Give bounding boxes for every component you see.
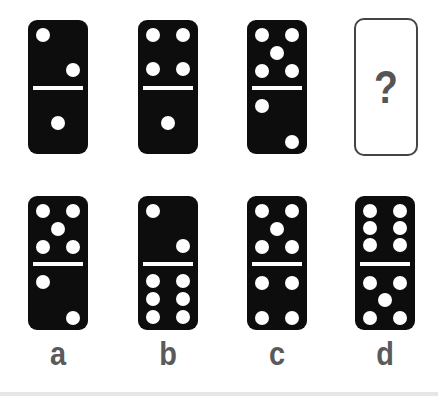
bottom-pip (51, 116, 65, 130)
bottom-pip (285, 276, 299, 290)
top-pip (51, 222, 65, 236)
top-pip (146, 62, 160, 76)
option-domino-b[interactable] (138, 196, 198, 330)
top-pip (255, 64, 269, 78)
domino-divider (252, 262, 302, 266)
top-pip (270, 222, 284, 236)
top-pip (176, 239, 190, 253)
top-pip (176, 28, 190, 42)
option-label-b[interactable]: b (143, 334, 194, 373)
domino-divider (143, 86, 193, 90)
bottom-pip (146, 310, 160, 324)
bottom-pip (161, 116, 175, 130)
unknown-domino-card: ? (354, 18, 418, 156)
top-pip (363, 204, 377, 218)
sequence-domino-1 (28, 20, 88, 154)
top-pip (255, 240, 269, 254)
bottom-pip (146, 274, 160, 288)
bottom-pip (176, 310, 190, 324)
domino-divider (33, 86, 83, 90)
option-domino-c[interactable] (247, 196, 307, 330)
top-pip (66, 63, 80, 77)
bottom-pip (146, 292, 160, 306)
top-pip (393, 204, 407, 218)
top-pip (66, 204, 80, 218)
option-label-a[interactable]: a (33, 334, 84, 373)
bottom-pip (176, 274, 190, 288)
top-pip (146, 204, 160, 218)
bottom-divider (0, 392, 438, 396)
domino-divider (143, 262, 193, 266)
sequence-domino-3 (247, 20, 307, 154)
option-domino-a[interactable] (28, 196, 88, 330)
top-pip (363, 221, 377, 235)
top-pip (255, 204, 269, 218)
bottom-pip (255, 99, 269, 113)
top-pip (146, 28, 160, 42)
top-pip (36, 204, 50, 218)
top-pip (36, 240, 50, 254)
bottom-pip (255, 311, 269, 325)
option-domino-d[interactable] (355, 196, 415, 330)
top-pip (66, 240, 80, 254)
top-pip (393, 221, 407, 235)
option-label-d[interactable]: d (360, 334, 411, 373)
top-pip (393, 238, 407, 252)
bottom-pip (36, 275, 50, 289)
bottom-pip (255, 276, 269, 290)
bottom-pip (393, 311, 407, 325)
bottom-pip (285, 311, 299, 325)
top-pip (285, 64, 299, 78)
top-pip (255, 28, 269, 42)
bottom-pip (285, 135, 299, 149)
top-pip (176, 62, 190, 76)
top-pip (285, 28, 299, 42)
sequence-domino-2 (138, 20, 198, 154)
top-pip (285, 240, 299, 254)
bottom-pip (363, 311, 377, 325)
domino-divider (252, 86, 302, 90)
top-pip (36, 28, 50, 42)
bottom-pip (66, 311, 80, 325)
top-pip (270, 46, 284, 60)
bottom-pip (176, 292, 190, 306)
question-mark-icon: ? (374, 60, 398, 114)
top-pip (285, 204, 299, 218)
top-pip (363, 238, 377, 252)
bottom-pip (393, 276, 407, 290)
bottom-pip (363, 276, 377, 290)
option-label-c[interactable]: c (252, 334, 303, 373)
domino-divider (33, 262, 83, 266)
domino-divider (360, 262, 410, 266)
bottom-pip (378, 293, 392, 307)
